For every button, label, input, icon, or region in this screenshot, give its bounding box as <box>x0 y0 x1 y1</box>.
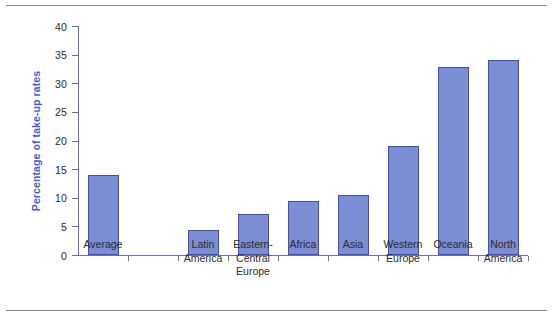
y-axis-tick: 35 <box>72 55 78 56</box>
y-axis-tick: 20 <box>72 141 78 142</box>
bar <box>438 67 469 255</box>
y-axis-line <box>78 26 79 255</box>
x-axis-category-label: North America <box>468 238 538 265</box>
y-axis-tick: 15 <box>72 169 78 170</box>
y-axis-tick: 10 <box>72 198 78 199</box>
y-axis-title: Percentage of take-up rates <box>28 26 44 255</box>
y-axis-tick-label: 35 <box>55 49 67 61</box>
y-axis-tick-label: 25 <box>55 106 67 118</box>
x-axis-category-label: Average <box>68 238 138 252</box>
y-axis-title-text: Percentage of take-up rates <box>30 70 42 210</box>
y-axis-tick-label: 20 <box>55 135 67 147</box>
x-axis-tick <box>328 256 329 261</box>
y-axis-tick-label: 30 <box>55 78 67 90</box>
y-axis-tick-label: 5 <box>61 221 67 233</box>
bottom-divider-rule <box>6 310 547 311</box>
chart-figure: Percentage of take-up rates 051015202530… <box>0 0 553 323</box>
y-axis-tick-label: 40 <box>55 21 67 33</box>
y-axis-tick: 30 <box>72 83 78 84</box>
y-axis-tick: 40 <box>72 26 78 27</box>
y-axis-tick: 0 <box>72 255 78 256</box>
x-axis-line <box>78 255 528 256</box>
y-axis-tick-label: 10 <box>55 192 67 204</box>
top-divider-rule <box>6 5 547 6</box>
plot-area: 0510152025303540 <box>78 26 528 255</box>
y-axis-tick-label: 0 <box>61 250 67 262</box>
x-axis-tick <box>128 256 129 261</box>
y-axis-tick: 25 <box>72 112 78 113</box>
y-axis-tick: 5 <box>72 226 78 227</box>
bar <box>488 60 519 255</box>
y-axis-tick-label: 15 <box>55 164 67 176</box>
